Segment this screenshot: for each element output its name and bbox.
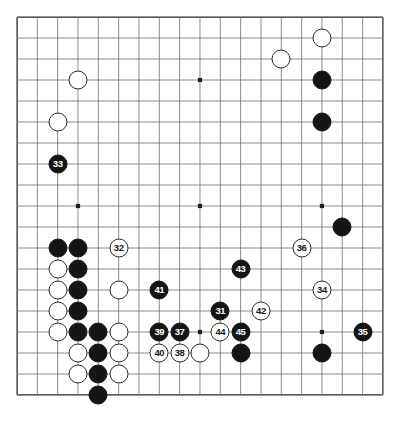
stone-move-number: 37 [175, 327, 185, 337]
stone-move-number: 33 [53, 159, 63, 169]
stone-move-40[interactable]: 40 [150, 344, 169, 363]
stone-move-37[interactable]: 37 [170, 323, 189, 342]
stone-black[interactable] [312, 71, 331, 90]
stone-white[interactable] [109, 344, 128, 363]
stone-black[interactable] [68, 302, 87, 321]
stone-black[interactable] [68, 260, 87, 279]
stone-white[interactable] [48, 302, 67, 321]
stone-black[interactable] [68, 239, 87, 258]
stone-move-43[interactable]: 43 [231, 260, 250, 279]
stone-white[interactable] [68, 71, 87, 90]
stone-white[interactable] [68, 365, 87, 384]
stone-move-number: 32 [114, 243, 124, 253]
stone-move-number: 35 [358, 327, 368, 337]
stone-white[interactable] [109, 323, 128, 342]
stone-black[interactable] [312, 344, 331, 363]
stone-black[interactable] [89, 386, 108, 405]
stone-white[interactable] [48, 323, 67, 342]
stone-black[interactable] [89, 365, 108, 384]
stone-move-number: 44 [215, 327, 225, 337]
stone-move-34[interactable]: 34 [312, 281, 331, 300]
stone-black[interactable] [48, 239, 67, 258]
stone-move-number: 36 [297, 243, 307, 253]
stone-black[interactable] [231, 344, 250, 363]
stone-white[interactable] [48, 113, 67, 132]
stone-move-36[interactable]: 36 [292, 239, 311, 258]
stone-white[interactable] [48, 260, 67, 279]
stone-move-32[interactable]: 32 [109, 239, 128, 258]
stone-move-number: 45 [236, 327, 246, 337]
stone-move-41[interactable]: 41 [150, 281, 169, 300]
stone-white[interactable] [190, 344, 209, 363]
stone-black[interactable] [333, 218, 352, 237]
stone-move-39[interactable]: 39 [150, 323, 169, 342]
stone-white[interactable] [272, 50, 291, 69]
go-board-diagram: 333236434134314239374445354038 [0, 0, 400, 424]
stone-move-42[interactable]: 42 [251, 302, 270, 321]
stone-move-35[interactable]: 35 [353, 323, 372, 342]
stone-white[interactable] [109, 281, 128, 300]
stone-move-number: 41 [154, 285, 164, 295]
stone-white[interactable] [48, 281, 67, 300]
stone-black[interactable] [89, 344, 108, 363]
stone-move-number: 42 [256, 306, 266, 316]
stone-black[interactable] [68, 281, 87, 300]
stone-move-45[interactable]: 45 [231, 323, 250, 342]
stone-move-number: 38 [175, 348, 185, 358]
stone-move-number: 34 [317, 285, 327, 295]
stone-move-44[interactable]: 44 [211, 323, 230, 342]
stone-black[interactable] [68, 323, 87, 342]
stone-white[interactable] [68, 344, 87, 363]
stone-move-number: 40 [154, 348, 164, 358]
stone-black[interactable] [89, 323, 108, 342]
stone-move-number: 31 [215, 306, 225, 316]
stone-move-number: 43 [236, 264, 246, 274]
stone-move-number: 39 [154, 327, 164, 337]
stone-white[interactable] [109, 365, 128, 384]
stone-move-38[interactable]: 38 [170, 344, 189, 363]
stone-move-33[interactable]: 33 [48, 155, 67, 174]
stone-black[interactable] [312, 113, 331, 132]
stone-move-31[interactable]: 31 [211, 302, 230, 321]
stone-white[interactable] [312, 29, 331, 48]
